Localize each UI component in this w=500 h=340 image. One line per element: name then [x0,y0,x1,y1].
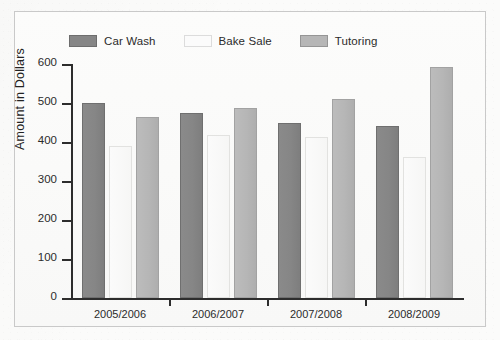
bar-bake-sale [305,137,328,298]
y-tick: 600 [62,64,71,66]
bar-tutoring [234,108,257,298]
bar-bake-sale [109,146,132,298]
y-tick: 300 [62,181,71,183]
chart-figure: Car Wash Bake Sale Tutoring Amount in Do… [14,11,486,327]
legend-label-tutoring: Tutoring [335,35,378,47]
legend-swatch-bake-sale [184,35,212,47]
legend-swatch-car-wash [69,35,97,47]
y-tick: 100 [62,259,71,261]
y-tick-label: 400 [38,134,57,146]
bar-tutoring [332,99,355,298]
y-tick-label: 600 [38,56,57,68]
y-tick-label: 0 [51,290,57,302]
y-tick-label: 200 [38,212,57,224]
x-axis-label: 2007/2008 [290,308,342,320]
bar-tutoring [430,67,453,298]
x-tick [169,299,171,306]
x-tick [267,299,269,306]
legend-label-car-wash: Car Wash [104,35,156,47]
x-axis-label: 2008/2009 [388,308,440,320]
y-tick: 400 [62,142,71,144]
legend-item-car-wash: Car Wash [69,35,156,47]
y-tick: 0 [62,298,71,300]
y-axis-title: Amount in Dollars [13,48,27,150]
y-tick-label: 500 [38,95,57,107]
y-tick-label: 100 [38,251,57,263]
y-axis-line [71,64,73,299]
x-tick [365,299,367,306]
legend-item-bake-sale: Bake Sale [184,35,272,47]
legend-label-bake-sale: Bake Sale [219,35,272,47]
bar-car-wash [278,123,301,299]
x-axis-label: 2005/2006 [94,308,146,320]
legend-item-tutoring: Tutoring [300,35,378,47]
chart-legend: Car Wash Bake Sale Tutoring [69,32,377,50]
y-tick-label: 300 [38,173,57,185]
y-tick: 200 [62,220,71,222]
bar-car-wash [180,113,203,298]
scanned-page: Car Wash Bake Sale Tutoring Amount in Do… [0,0,500,340]
x-axis-label: 2006/2007 [192,308,244,320]
bar-bake-sale [207,135,230,298]
bar-car-wash [376,126,399,298]
plot-area: 6005004003002001000 2005/20062006/200720… [71,64,463,298]
y-tick: 500 [62,103,71,105]
bar-car-wash [82,103,105,298]
bar-tutoring [136,117,159,298]
legend-swatch-tutoring [300,35,328,47]
bar-bake-sale [403,157,426,298]
